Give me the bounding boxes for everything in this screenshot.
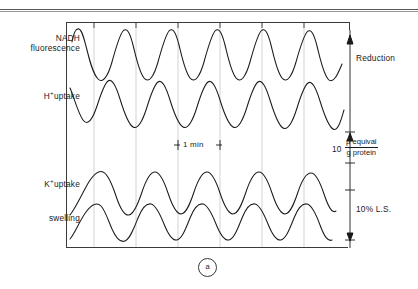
trace-h-uptake — [70, 80, 344, 129]
trace-swelling — [70, 204, 332, 242]
amount-denominator: g protein — [345, 148, 378, 157]
plot-frame — [66, 22, 350, 248]
time-scale-label: 1 min — [183, 140, 204, 150]
trace-label-nadh-line1: NADH — [18, 33, 80, 43]
reduction-label: Reduction — [356, 53, 395, 63]
amount-scale-value: 10 — [332, 144, 342, 154]
amount-scale-fraction: μ equival g protein — [345, 137, 378, 157]
trace-label-nadh-line2: fluorescence — [18, 43, 80, 53]
reduction-arrowhead — [347, 35, 353, 44]
figure-page: NADH fluorescence H+uptake K+uptake swel… — [0, 0, 418, 289]
k-uptake-text: uptake — [54, 179, 80, 189]
figure-caption-marker: a — [198, 258, 217, 277]
h-uptake-text: uptake — [54, 91, 80, 101]
trace-label-h-uptake: H+uptake — [18, 91, 80, 101]
trace-label-k-uptake: K+uptake — [18, 179, 80, 189]
trace-nadh-fluorescence — [72, 29, 342, 81]
trace-label-swelling: swelling — [18, 213, 80, 223]
trace-k-uptake — [70, 172, 336, 215]
amount-numerator: μ equival — [345, 137, 378, 146]
light-scatter-label: 10% L.S. — [356, 204, 391, 214]
